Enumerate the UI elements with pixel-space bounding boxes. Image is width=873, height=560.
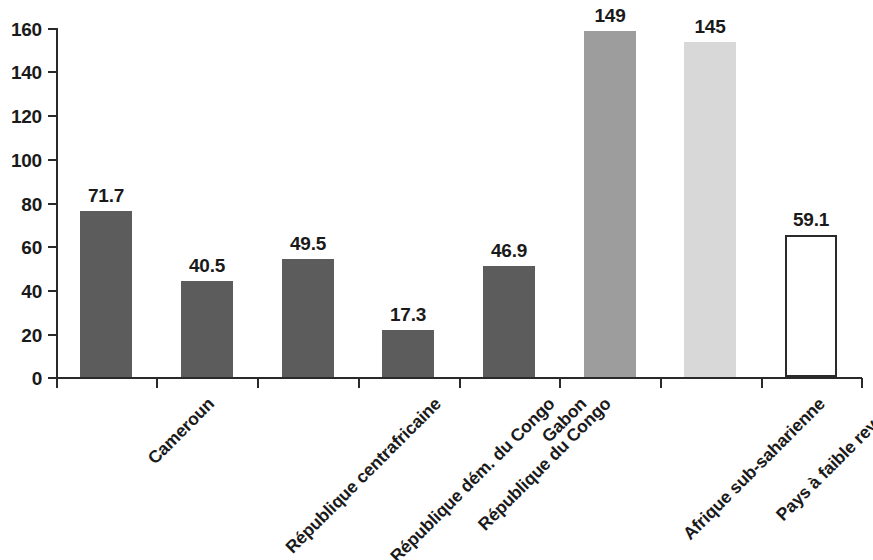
y-axis-tick-label: 140 [0,63,42,82]
y-tick-20 [48,334,57,336]
x-tick [660,378,662,388]
bar-pays-a-faible-revenu [684,42,736,377]
bar-value-label: 145 [670,17,750,36]
bar-value-label: 59.1 [771,210,851,229]
y-axis-tick-label: 60 [0,238,42,257]
x-tick [56,378,58,388]
x-tick [156,378,158,388]
y-tick-80 [48,203,57,205]
bar-republique-centrafricaine [181,281,233,377]
bar-value-label: 149 [570,6,650,25]
x-tick [459,378,461,388]
y-axis-tick-label: 120 [0,107,42,126]
bar-afrique-sub-saharienne [584,31,636,377]
bar-gabon [483,266,535,377]
bar-republique-dem-du-congo [282,259,334,377]
bar-value-label: 71.7 [66,186,146,205]
bar-republique-du-congo [382,330,434,377]
y-axis-tick-label: 100 [0,151,42,170]
y-tick-100 [48,159,57,161]
x-axis-category-label: Afrique sub-saharienne [680,395,828,543]
bar-value-label: 46.9 [469,241,549,260]
bar-pays-riches-en-ressources [785,235,837,377]
y-axis-tick-label: 160 [0,20,42,39]
bar-chart: 160 140 120 100 80 60 40 20 0 71.7 40.5 … [0,0,873,560]
y-tick-160 [48,28,57,30]
y-axis-tick-label: 0 [0,369,42,388]
x-tick [257,378,259,388]
x-axis-category-label: Pays à faible revenu [773,395,873,524]
y-axis-tick-label: 40 [0,282,42,301]
y-axis-tick-label: 80 [0,195,42,214]
bar-cameroun [80,211,132,377]
x-tick [761,378,763,388]
bar-value-label: 17.3 [368,305,448,324]
bar-value-label: 40.5 [167,256,247,275]
y-tick-140 [48,71,57,73]
x-tick [861,378,863,388]
x-axis-category-label: Cameroun [145,395,218,468]
y-tick-120 [48,115,57,117]
y-tick-60 [48,246,57,248]
x-tick [559,378,561,388]
y-tick-40 [48,290,57,292]
y-axis-tick-label: 20 [0,326,42,345]
x-tick [358,378,360,388]
bar-value-label: 49.5 [268,234,348,253]
